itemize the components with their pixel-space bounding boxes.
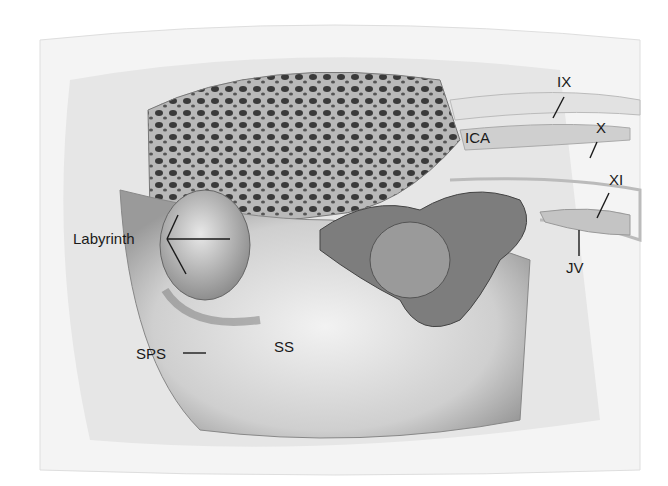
label-ix: IX [557, 74, 571, 89]
label-xi: XI [609, 172, 623, 187]
label-x: X [596, 120, 606, 135]
label-jv: JV [566, 260, 584, 275]
label-sps: SPS [136, 346, 166, 361]
anatomical-illustration: IX X XI ICA JV Labyrinth SPS SS [0, 0, 668, 486]
label-ss: SS [274, 339, 294, 354]
label-ica: ICA [465, 130, 490, 145]
label-labyrinth: Labyrinth [73, 231, 135, 246]
